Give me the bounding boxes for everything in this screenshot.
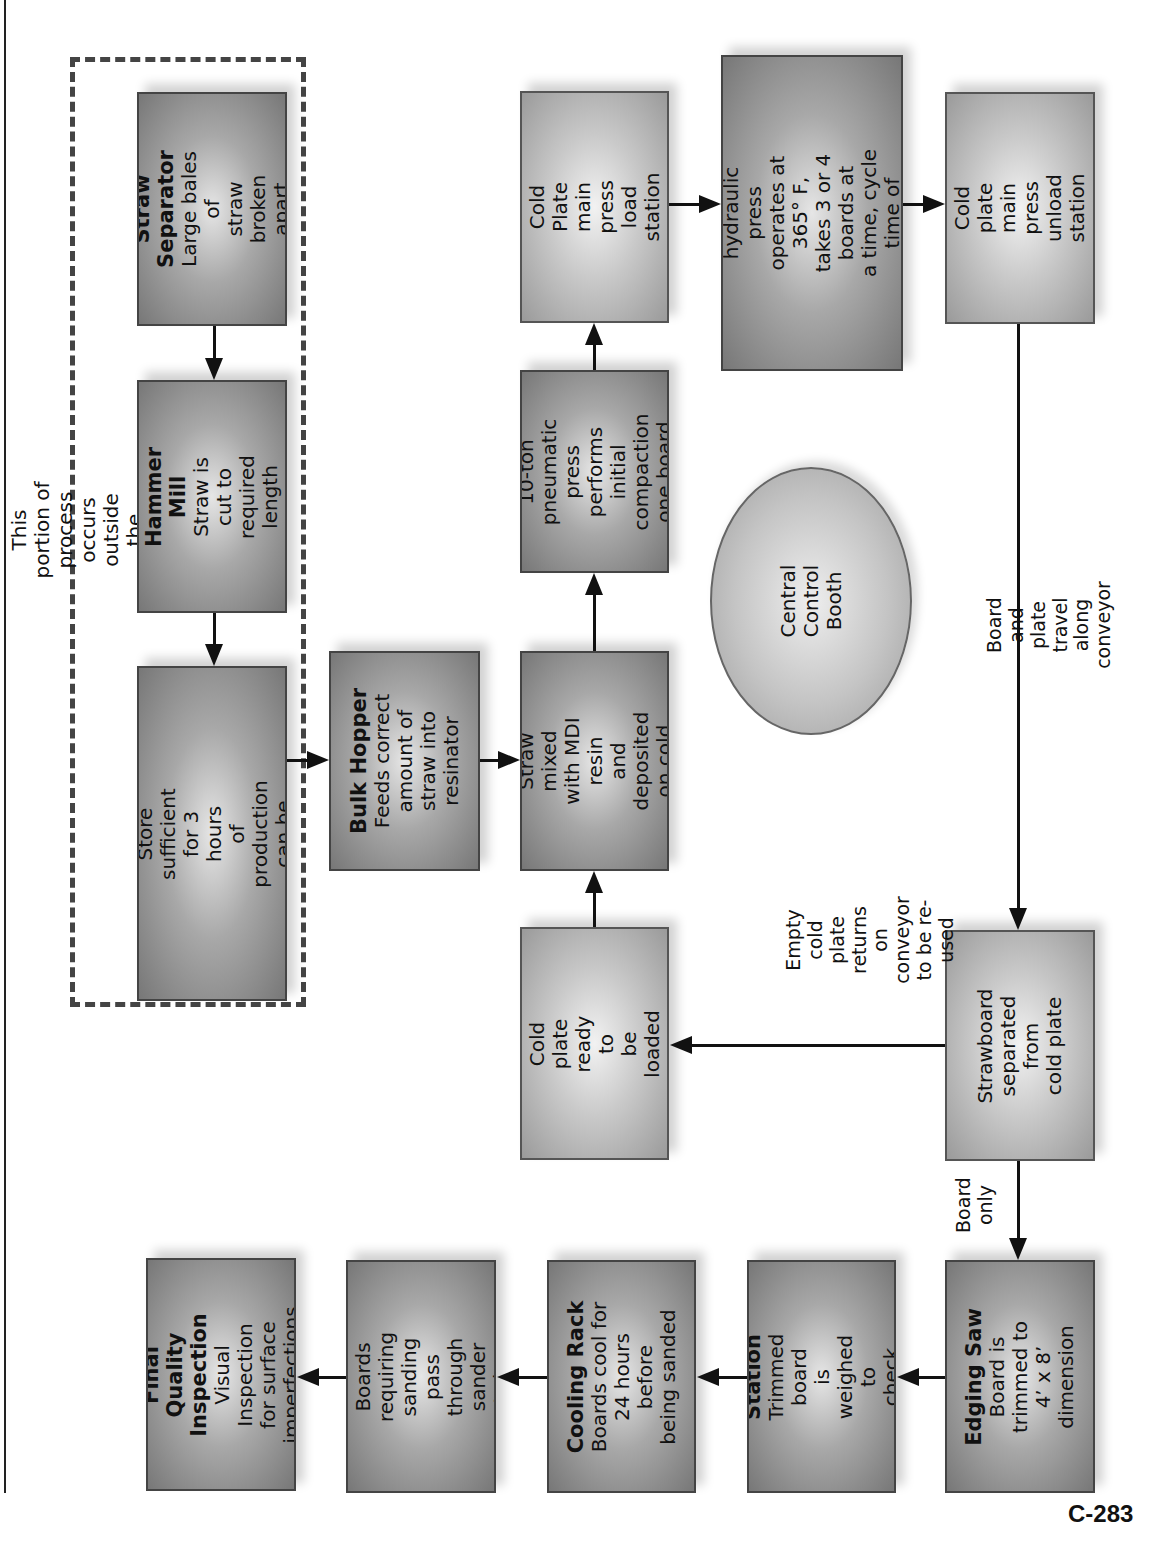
arrow-right-icon: [307, 751, 329, 769]
connector-conveyor: [1017, 324, 1020, 910]
sander-box: SanderBoards requiring sanding pass thro…: [346, 1260, 496, 1493]
arrow-up-icon: [585, 871, 603, 893]
arrow-down-icon: [1009, 1238, 1027, 1260]
arrow-up-icon: [585, 573, 603, 595]
cold-plate-load-text: Cold Plate main press load station: [525, 173, 664, 242]
straw-separator-desc: Large bales of straw broken apart: [179, 150, 287, 268]
strawboard-separated-text: Strawboard separated from cold plate: [973, 988, 1066, 1103]
connector-coldplate-resinator: [593, 890, 596, 927]
sander-desc: Boards requiring sanding pass through sa…: [353, 1331, 496, 1421]
resinator-desc: Straw mixed with MDI resin and deposited…: [520, 704, 669, 818]
conveyor-label: Board and plate travel along conveyor: [1030, 360, 1070, 890]
arrow-up-icon: [585, 323, 603, 345]
final-inspection-desc: Visual Inspection for surface imperfecti…: [211, 1306, 296, 1443]
cooling-rack-box: Cooling RackBoards cool for 24 hours bef…: [547, 1260, 696, 1493]
arrow-left-icon: [670, 1036, 692, 1054]
final-inspection-title: Final Quality Inspection: [146, 1306, 211, 1443]
main-press-desc: 100-ton hydraulic press operates at 365°…: [721, 148, 903, 278]
arrow-right-icon: [699, 195, 721, 213]
arrow-right-icon: [923, 195, 945, 213]
arrow-left-icon: [897, 1368, 919, 1386]
cold-plate-unload-text: Cold plate main press unload station: [950, 174, 1089, 243]
arrow-left-icon: [297, 1368, 319, 1386]
arrow-down-icon: [205, 644, 223, 666]
central-control-booth: Central Control Booth: [710, 467, 912, 735]
edging-saw-desc: Board is trimmed to 4’ x 8’ dimension: [986, 1308, 1078, 1446]
cut-straw-bin-desc: Store sufficient for 3 hours of producti…: [137, 780, 287, 887]
bulk-hopper-desc: Feeds correct amount of straw into resin…: [371, 688, 463, 834]
strawboard-separated-box: Strawboard separated from cold plate: [945, 930, 1095, 1161]
straw-separator-box: Straw SeparatorLarge bales of straw brok…: [137, 92, 287, 326]
pre-press-box: Pre-Press10-ton pneumatic press performs…: [520, 370, 669, 573]
control-booth-text: Central Control Booth: [776, 565, 846, 638]
arrow-right-icon: [498, 751, 520, 769]
cold-plate-unload-station-box: Cold plate main press unload station: [945, 92, 1095, 324]
hammer-mill-title: Hammer Mill: [142, 446, 190, 546]
connector-sander-final: [317, 1376, 346, 1379]
cooling-rack-title: Cooling Rack: [563, 1300, 587, 1453]
board-only-label: Board only: [945, 1165, 1005, 1245]
main-press-box: Main Press100-ton hydraulic press operat…: [721, 55, 903, 371]
connector-mainpress-unload: [903, 203, 925, 206]
cold-plate-load-station-box: Cold Plate main press load station: [520, 91, 669, 323]
page-number: C-283: [1068, 1500, 1133, 1528]
arrow-left-icon: [497, 1368, 519, 1386]
connector-prepress-load: [593, 343, 596, 370]
straw-separator-title: Straw Separator: [137, 150, 179, 268]
cold-plate-ready-text: Cold plate ready to be loaded: [525, 1010, 664, 1078]
cut-straw-storage-bin-box: Cut Straw Storage BinStore sufficient fo…: [137, 666, 287, 1001]
quality-station-title: Quality Station: [747, 1333, 765, 1420]
connector-bin-hopper: [287, 759, 309, 762]
connector-resinator-prepress: [593, 593, 596, 651]
edging-saw-title: Edging Saw: [962, 1308, 986, 1446]
connector-cooling-sander: [517, 1376, 547, 1379]
connector-saw-quality: [917, 1376, 945, 1379]
bulk-hopper-box: Bulk HopperFeeds correct amount of straw…: [329, 651, 480, 871]
connector-load-mainpress: [669, 203, 701, 206]
connector-hammer-bin: [213, 613, 216, 645]
connector-separator-hammer: [213, 326, 216, 360]
page-margin-rule: [4, 0, 6, 1493]
arrow-down-icon: [205, 358, 223, 380]
quality-station-box: Quality StationTrimmed board is weighed …: [747, 1260, 896, 1493]
arrow-left-icon: [697, 1368, 719, 1386]
pre-press-desc: 10-ton pneumatic press performs initial …: [520, 413, 669, 530]
hammer-mill-box: Hammer MillStraw is cut to required leng…: [137, 380, 287, 613]
connector-hopper-resinator: [480, 759, 500, 762]
connector-quality-cooling: [717, 1376, 747, 1379]
resinator-box: ResinatorStraw mixed with MDI resin and …: [520, 651, 669, 871]
bulk-hopper-title: Bulk Hopper: [346, 688, 370, 834]
empty-plate-label: Empty cold plate returns on conveyor to …: [810, 840, 930, 1040]
final-quality-inspection-box: Final Quality InspectionVisual Inspectio…: [146, 1258, 296, 1491]
connector-empty-plate-return: [690, 1044, 945, 1047]
quality-station-desc: Trimmed board is weighed to check densit…: [765, 1333, 896, 1420]
cold-plate-ready-box: Cold plate ready to be loaded: [520, 927, 669, 1160]
hammer-mill-desc: Straw is cut to required length: [190, 446, 282, 546]
arrow-down-icon: [1009, 908, 1027, 930]
cooling-rack-desc: Boards cool for 24 hours before being sa…: [588, 1300, 680, 1453]
facility-note: This portion of process occurs outside t…: [80, 60, 120, 1000]
edging-saw-box: Edging SawBoard is trimmed to 4’ x 8’ di…: [945, 1260, 1095, 1493]
connector-board-only: [1017, 1161, 1020, 1239]
